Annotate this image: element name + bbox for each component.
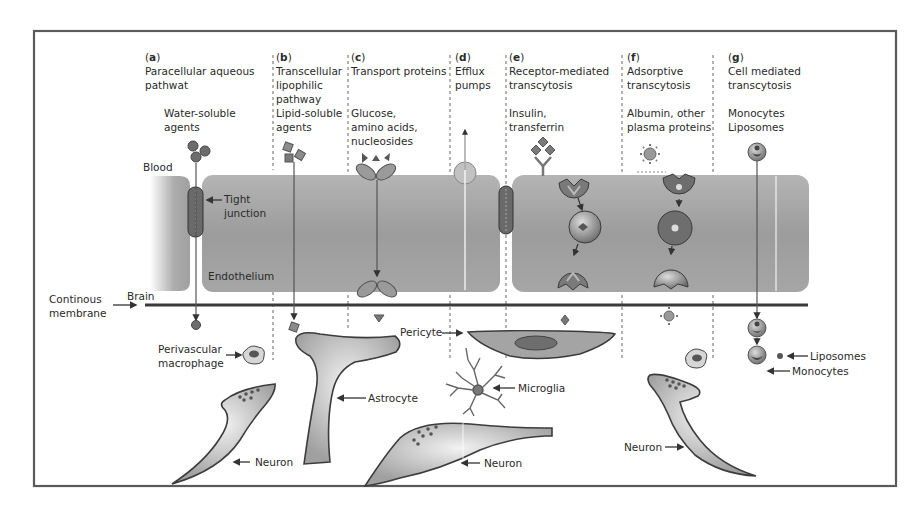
svg-text:transferrin: transferrin: [509, 121, 564, 133]
brain-label: Brain: [127, 290, 155, 302]
neuron-left-label: Neuron: [255, 456, 293, 468]
route-a-title-2: pathwat: [145, 79, 188, 91]
route-letter-a: (a): [145, 51, 160, 63]
svg-text:Monocytes: Monocytes: [728, 107, 785, 119]
svg-text:Liposomes: Liposomes: [728, 121, 784, 133]
route-a-agent-1: Water-soluble: [164, 107, 236, 119]
svg-text:transcytosis: transcytosis: [627, 79, 690, 91]
pericyte-label: Pericyte: [400, 326, 442, 338]
tight-junction-label-2: junction: [223, 207, 266, 219]
svg-text:Transcellular: Transcellular: [275, 65, 343, 77]
membrane-label-1: Continous: [49, 293, 102, 305]
svg-text:nucleosides: nucleosides: [351, 135, 413, 147]
neuron-right-label: Neuron: [624, 441, 662, 453]
svg-text:transcytosis: transcytosis: [728, 79, 791, 91]
membrane-label-2: membrane: [49, 307, 106, 319]
svg-text:amino acids,: amino acids,: [351, 121, 418, 133]
astrocyte-label: Astrocyte: [368, 392, 418, 404]
liposomes-label: Liposomes: [810, 350, 866, 362]
svg-text:agents: agents: [276, 121, 312, 133]
macrophage-label-2: macrophage: [158, 357, 224, 369]
route-a-title-1: Paracellular aqueous: [145, 65, 255, 77]
monocytes-label: Monocytes: [792, 365, 849, 377]
route-a-agent-2: agents: [164, 121, 200, 133]
svg-text:(b): (b): [276, 51, 292, 63]
tight-junction-label-1: Tight: [223, 193, 250, 205]
svg-text:Albumin, other: Albumin, other: [627, 107, 706, 119]
svg-text:pumps: pumps: [455, 79, 491, 91]
svg-text:Glucose,: Glucose,: [351, 107, 396, 119]
tight-junction-right: [499, 186, 513, 234]
svg-text:lipophilic: lipophilic: [276, 79, 323, 91]
svg-text:Insulin,: Insulin,: [509, 107, 547, 119]
svg-text:transcytosis: transcytosis: [509, 79, 572, 91]
blood-label: Blood: [143, 161, 173, 173]
liposome-icon: [777, 353, 783, 359]
svg-text:(e): (e): [509, 51, 524, 63]
monocyte-brain-1-icon: [748, 319, 766, 337]
svg-text:(g): (g): [728, 51, 744, 63]
svg-text:Transport proteins: Transport proteins: [350, 65, 446, 77]
bbb-transport-diagram: (a) Paracellular aqueous pathwat Water-s…: [0, 0, 923, 509]
endothelium-label: Endothelium: [208, 270, 274, 282]
svg-text:Lipid-soluble: Lipid-soluble: [276, 107, 342, 119]
water-soluble-agent-brain-icon: [192, 321, 201, 330]
perivascular-macrophage-right-icon: [685, 349, 706, 368]
monocyte-brain-2-icon: [748, 346, 766, 364]
svg-text:Efflux: Efflux: [455, 65, 485, 77]
monocyte-blood-icon: [748, 143, 766, 161]
svg-text:(d): (d): [455, 51, 471, 63]
microglia-label: Microglia: [518, 382, 565, 394]
svg-text:Cell mediated: Cell mediated: [728, 65, 801, 77]
svg-text:pathway: pathway: [276, 93, 321, 105]
adsorptive-core: [672, 225, 679, 232]
macrophage-label-1: Perivascular: [158, 343, 223, 355]
svg-text:Adsorptive: Adsorptive: [627, 65, 683, 77]
neuron-center-label: Neuron: [484, 457, 522, 469]
svg-text:plasma proteins: plasma proteins: [627, 121, 711, 133]
svg-text:(c): (c): [351, 51, 365, 63]
svg-text:Receptor-mediated: Receptor-mediated: [509, 65, 609, 77]
svg-text:(f): (f): [627, 51, 640, 63]
